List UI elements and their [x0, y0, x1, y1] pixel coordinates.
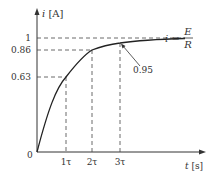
x-tick-1tau: 1τ [61, 157, 72, 167]
guide-lines [37, 38, 185, 152]
asymptote-lhs: i = [165, 33, 180, 44]
x-tick-3tau: 3τ [115, 157, 126, 167]
y-tick-0.63: 0.63 [11, 72, 31, 82]
y-axis-label: i [A] [42, 8, 64, 19]
origin-label: 0 [27, 150, 33, 160]
rl-current-diagram: i [A] 1 0.86 0.63 0 1τ 2τ 3τ t [s] 0.95 … [0, 0, 217, 181]
y-tick-0.86: 0.86 [11, 45, 31, 55]
x-tick-2tau: 2τ [87, 157, 98, 167]
annotation-leader [123, 46, 140, 66]
asymptote-numerator: E [183, 26, 192, 37]
x-axis-label: t [s] [185, 161, 203, 171]
x-axis-arrow-icon [199, 150, 206, 155]
asymptote-denominator: R [183, 39, 192, 50]
current-curve [37, 39, 185, 153]
y-tick-1: 1 [25, 33, 31, 43]
annotation-095: 0.95 [133, 65, 153, 75]
y-axis-arrow-icon [35, 8, 40, 15]
